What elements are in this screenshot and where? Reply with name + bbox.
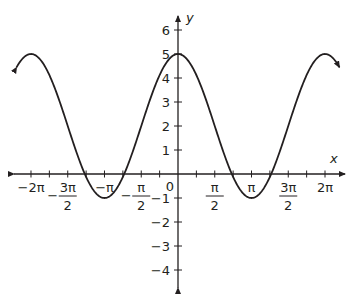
- x-tick-label: 0: [166, 179, 174, 194]
- y-axis-label: y: [185, 10, 194, 25]
- svg-text:3π: 3π: [280, 180, 296, 195]
- y-tick-label: −4: [151, 263, 170, 278]
- y-tick-label: 3: [162, 95, 170, 110]
- svg-text:2: 2: [64, 198, 72, 213]
- cosine-graph: −4−3−2−1123456−2π3π2−−ππ2−0π2π3π22π x y: [0, 0, 354, 297]
- svg-text:−: −: [121, 188, 132, 203]
- x-tick-label: 2π: [317, 180, 333, 195]
- x-axis-label: x: [329, 151, 338, 166]
- axes: [14, 16, 345, 288]
- svg-text:3π: 3π: [60, 180, 76, 195]
- y-tick-label: 6: [162, 23, 170, 38]
- y-tick-label: −2: [151, 215, 170, 230]
- svg-text:2: 2: [284, 198, 292, 213]
- y-tick-label: −3: [151, 239, 170, 254]
- x-tick-label: π: [248, 180, 256, 195]
- svg-text:π: π: [211, 180, 219, 195]
- svg-text:π: π: [137, 180, 145, 195]
- y-tick-label: 2: [162, 119, 170, 134]
- x-tick-fraction-label: 3π2: [279, 180, 297, 213]
- svg-text:−: −: [47, 188, 58, 203]
- x-tick-label: −2π: [17, 180, 44, 195]
- x-tick-fraction-label: π2−: [121, 180, 150, 213]
- y-tick-label: 4: [162, 71, 170, 86]
- svg-text:2: 2: [211, 198, 219, 213]
- x-tick-fraction-label: 3π2−: [47, 180, 76, 213]
- y-tick-label: 1: [162, 143, 170, 158]
- svg-text:2: 2: [137, 198, 145, 213]
- x-tick-fraction-label: π2: [206, 180, 224, 213]
- x-tick-label: −π: [95, 180, 114, 195]
